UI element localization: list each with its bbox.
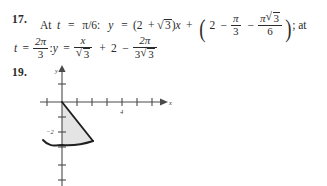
constant-2: 2 — [209, 19, 215, 31]
denominator: 6 — [258, 26, 282, 38]
fraction-pi-over-3: π3 — [231, 13, 241, 37]
radicand: 3 — [164, 19, 172, 32]
numerator: π3 — [258, 12, 282, 26]
y-axis-arrowhead — [58, 65, 65, 72]
denominator: 3 — [231, 26, 241, 38]
problem-number-19: 19. — [12, 66, 27, 78]
minus-sign-1: − — [218, 19, 230, 31]
x-axis-arrowhead — [160, 98, 168, 105]
denominator: 3 — [33, 49, 48, 61]
equals-sign: = — [65, 19, 77, 31]
problem-number-17: 17. — [12, 13, 27, 25]
minus-sign: − — [120, 42, 132, 54]
variable-t: t — [54, 19, 62, 31]
variable-t: t — [14, 42, 17, 54]
problem-19-graph: y x 4 −2 — [40, 62, 210, 186]
textbook-answer-page: 17. At t = π/6: y = (2 +3)x + ( 2 −π3 −π… — [0, 0, 327, 186]
variable-x: x — [176, 19, 181, 31]
equals-sign-2: = — [119, 19, 131, 31]
numerator: 2π — [33, 36, 48, 49]
numerator: π — [231, 13, 241, 26]
variable-y: y — [53, 42, 58, 54]
trailing-text: ; at — [292, 19, 306, 31]
fraction-x-over-sqrt3: x3 — [74, 35, 93, 60]
sqrt-3-radical: 3 — [76, 48, 91, 60]
plus-sign: + — [97, 42, 109, 54]
plus-sign-2: + — [184, 19, 196, 31]
fraction-pi-sqrt3-over-6: π36 — [258, 12, 282, 37]
y-axis-label: y — [54, 67, 58, 74]
fraction-2pi-over-3: 2π3 — [33, 36, 48, 60]
sqrt-3-radical: 3 — [266, 12, 281, 24]
denominator: 3 — [74, 48, 93, 61]
coordinate-plot-svg: y x 4 −2 — [40, 62, 210, 186]
sqrt-3-radical: 3 — [157, 19, 172, 32]
problem-17-answer-line-1: At t = π/6: y = (2 +3)x + ( 2 −π3 −π36);… — [40, 12, 307, 37]
x-tick-label-4: 4 — [120, 108, 124, 115]
x-axis-label: x — [168, 99, 172, 106]
radicand: 3 — [83, 48, 91, 60]
coefficient-open: (2 — [133, 19, 143, 31]
t-value: π/6: — [80, 19, 103, 31]
variable-y: y — [106, 19, 116, 31]
sqrt-3-radical: 3 — [140, 48, 155, 60]
denominator: 33 — [133, 48, 157, 61]
problem-17-answer-line-2: t =2π3:y =x3 + 2 −2π33 — [14, 35, 158, 60]
lead-text: At — [40, 19, 52, 31]
equals-sign: = — [20, 42, 32, 54]
radicand: 3 — [273, 12, 281, 24]
y-tick-label-minus2: −2 — [46, 128, 54, 135]
fraction-2pi-over-3sqrt3: 2π33 — [133, 35, 157, 60]
minus-sign-2: − — [245, 19, 257, 31]
plus-sign: + — [145, 19, 157, 31]
radicand: 3 — [147, 48, 155, 60]
equals-sign-2: = — [61, 42, 73, 54]
constant-2: 2 — [111, 42, 117, 54]
